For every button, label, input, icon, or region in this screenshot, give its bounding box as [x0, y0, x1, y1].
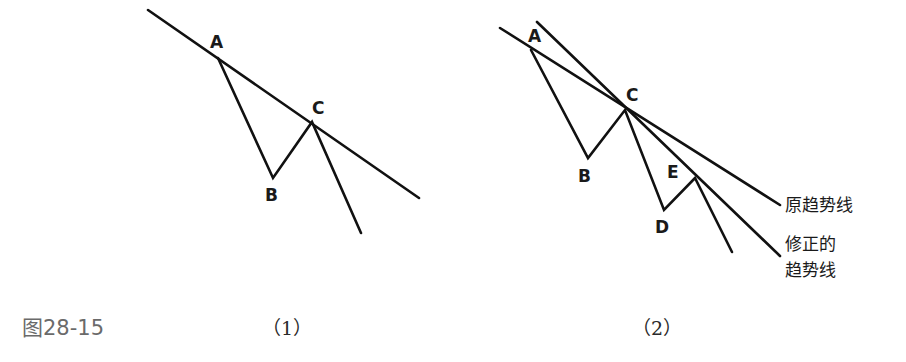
- panel-1-caption: （1）: [262, 313, 312, 340]
- panel-2-point-c: C: [626, 87, 638, 104]
- panel-2-point-e: E: [667, 164, 679, 181]
- figure-caption: 图28-15: [22, 311, 104, 341]
- panel-2-point-d: D: [655, 219, 669, 236]
- panel-2-diagram: [500, 22, 780, 256]
- revised-trendline-label-line2: 趋势线: [785, 258, 836, 282]
- panel-1-trendline: [148, 10, 419, 198]
- panel-1-point-a: A: [210, 34, 223, 51]
- panel-1-price-path: [218, 58, 361, 233]
- panel-1-diagram: [148, 10, 419, 233]
- panel-2-caption: （2）: [632, 313, 682, 340]
- original-trendline-label: 原趋势线: [785, 193, 853, 217]
- panel-2-original-trendline: [500, 28, 780, 205]
- panel-2-point-b: B: [578, 168, 591, 185]
- panel-2-point-a: A: [528, 28, 541, 45]
- panel-1-point-b: B: [265, 187, 278, 204]
- revised-trendline-label-line1: 修正的: [785, 232, 836, 256]
- figure-canvas: [0, 0, 906, 362]
- panel-2-price-path: [531, 50, 732, 252]
- panel-1-point-c: C: [312, 100, 324, 117]
